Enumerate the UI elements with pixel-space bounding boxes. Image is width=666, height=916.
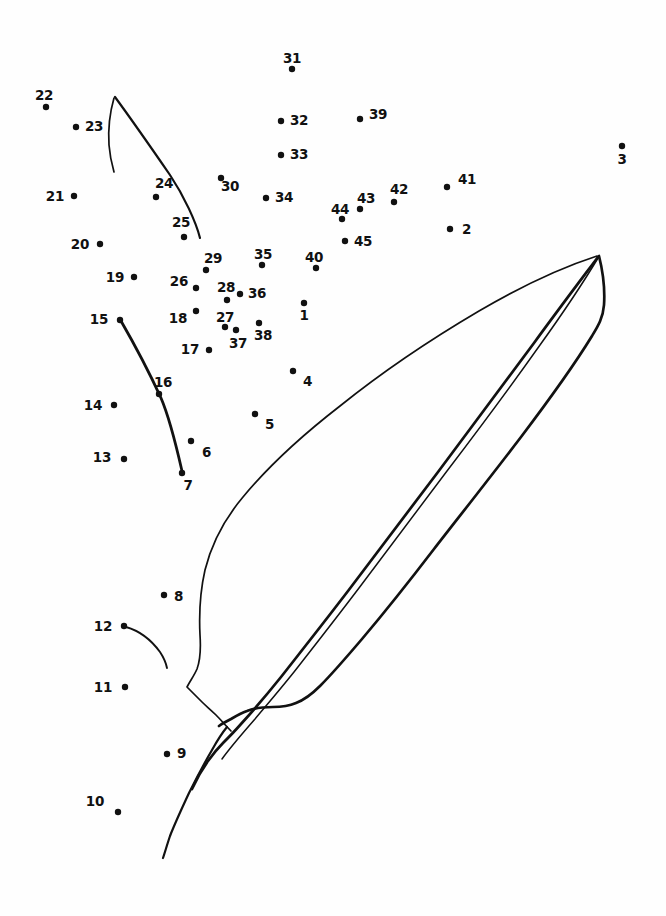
- dot-mark-9[interactable]: [164, 751, 170, 757]
- dot-mark-19[interactable]: [131, 274, 137, 280]
- dot-9[interactable]: 9: [164, 745, 186, 761]
- dot-10[interactable]: 10: [86, 793, 121, 815]
- dot-6[interactable]: 6: [188, 438, 211, 460]
- dot-mark-14[interactable]: [111, 402, 117, 408]
- dot-17[interactable]: 17: [181, 341, 212, 357]
- dot-mark-25[interactable]: [181, 234, 187, 240]
- dot-mark-23[interactable]: [73, 124, 79, 130]
- dot-label-3: 3: [617, 151, 626, 167]
- dot-mark-33[interactable]: [278, 152, 284, 158]
- dot-mark-20[interactable]: [97, 241, 103, 247]
- dot-42[interactable]: 42: [390, 181, 408, 205]
- dot-43[interactable]: 43: [357, 190, 375, 212]
- dot-29[interactable]: 29: [203, 250, 222, 273]
- dot-1[interactable]: 1: [299, 300, 308, 323]
- dot-mark-17[interactable]: [206, 347, 212, 353]
- dot-21[interactable]: 21: [46, 188, 77, 204]
- dot-mark-13[interactable]: [121, 456, 127, 462]
- dot-31[interactable]: 31: [283, 50, 301, 72]
- dot-32[interactable]: 32: [278, 112, 308, 128]
- dot-7[interactable]: 7: [179, 470, 193, 493]
- dot-mark-31[interactable]: [289, 66, 295, 72]
- dot-mark-34[interactable]: [263, 195, 269, 201]
- dot-14[interactable]: 14: [84, 397, 117, 413]
- dot-30[interactable]: 30: [218, 175, 239, 194]
- dot-mark-32[interactable]: [278, 118, 284, 124]
- dot-22[interactable]: 22: [35, 87, 53, 110]
- dot-label-35: 35: [254, 246, 272, 262]
- dot-20[interactable]: 20: [71, 236, 103, 252]
- dot-23[interactable]: 23: [73, 118, 103, 134]
- dot-45[interactable]: 45: [342, 233, 372, 249]
- dot-18[interactable]: 18: [169, 308, 199, 326]
- dot-mark-42[interactable]: [391, 199, 397, 205]
- dot-mark-3[interactable]: [619, 143, 625, 149]
- dot-41[interactable]: 41: [444, 171, 476, 190]
- dot-3[interactable]: 3: [617, 143, 626, 167]
- dot-24[interactable]: 24: [153, 175, 173, 200]
- dot-label-16: 16: [154, 374, 172, 390]
- dot-mark-22[interactable]: [43, 104, 49, 110]
- dot-35[interactable]: 35: [254, 246, 272, 268]
- dot-mark-8[interactable]: [161, 592, 167, 598]
- dot-label-1: 1: [299, 307, 308, 323]
- dot-mark-24[interactable]: [153, 194, 159, 200]
- dot-label-2: 2: [462, 221, 471, 237]
- dot-label-25: 25: [172, 214, 190, 230]
- dot-28[interactable]: 28: [217, 279, 235, 303]
- dot-38[interactable]: 38: [254, 320, 272, 343]
- dot-mark-40[interactable]: [313, 265, 319, 271]
- dot-mark-4[interactable]: [290, 368, 296, 374]
- dot-36[interactable]: 36: [237, 285, 266, 301]
- dot-mark-29[interactable]: [203, 267, 209, 273]
- dot-26[interactable]: 26: [170, 273, 199, 291]
- dot-mark-37[interactable]: [233, 327, 239, 333]
- dot-mark-35[interactable]: [259, 262, 265, 268]
- dot-13[interactable]: 13: [93, 449, 127, 465]
- dot-mark-39[interactable]: [357, 116, 363, 122]
- dot-8[interactable]: 8: [161, 588, 183, 604]
- dot-39[interactable]: 39: [357, 106, 387, 122]
- dot-12[interactable]: 12: [94, 618, 127, 634]
- dot-mark-21[interactable]: [71, 193, 77, 199]
- dot-16[interactable]: 16: [154, 374, 172, 397]
- dot-mark-7[interactable]: [179, 470, 185, 476]
- dot-33[interactable]: 33: [278, 146, 308, 162]
- dot-mark-15[interactable]: [117, 317, 123, 323]
- dot-mark-36[interactable]: [237, 291, 243, 297]
- dot-mark-43[interactable]: [357, 206, 363, 212]
- dot-5[interactable]: 5: [252, 411, 274, 432]
- dot-15[interactable]: 15: [90, 311, 123, 327]
- dot-4[interactable]: 4: [290, 368, 312, 389]
- dot-label-14: 14: [84, 397, 102, 413]
- dot-mark-12[interactable]: [121, 623, 127, 629]
- dot-mark-2[interactable]: [447, 226, 453, 232]
- dot-34[interactable]: 34: [263, 189, 293, 205]
- dot-11[interactable]: 11: [94, 679, 128, 695]
- dot-2[interactable]: 2: [447, 221, 471, 237]
- dot-37[interactable]: 37: [229, 327, 247, 351]
- front-leaf-outline: [187, 256, 597, 731]
- dot-mark-18[interactable]: [193, 308, 199, 314]
- dot-mark-26[interactable]: [193, 285, 199, 291]
- dot-mark-10[interactable]: [115, 809, 121, 815]
- dot-19[interactable]: 19: [106, 269, 137, 285]
- puzzle-canvas: 1234567891011121314151617181920212223242…: [0, 0, 666, 916]
- dot-44[interactable]: 44: [331, 201, 349, 222]
- dot-27[interactable]: 27: [216, 309, 234, 330]
- dot-mark-5[interactable]: [252, 411, 258, 417]
- dot-mark-11[interactable]: [122, 684, 128, 690]
- dot-mark-16[interactable]: [156, 391, 162, 397]
- leaf-base-notch: [163, 727, 227, 858]
- dot-mark-45[interactable]: [342, 238, 348, 244]
- dot-mark-38[interactable]: [256, 320, 262, 326]
- dot-label-12: 12: [94, 618, 112, 634]
- dot-mark-1[interactable]: [301, 300, 307, 306]
- dot-label-41: 41: [458, 171, 476, 187]
- dot-mark-41[interactable]: [444, 184, 450, 190]
- dot-25[interactable]: 25: [172, 214, 190, 240]
- dots-layer: 1234567891011121314151617181920212223242…: [35, 50, 627, 815]
- dot-mark-28[interactable]: [224, 297, 230, 303]
- dot-mark-6[interactable]: [188, 438, 194, 444]
- dot-40[interactable]: 40: [305, 249, 323, 271]
